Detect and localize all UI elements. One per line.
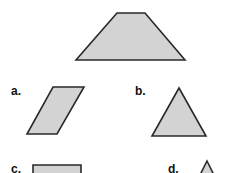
option-d-small-triangle[interactable] <box>200 161 214 173</box>
option-c-rectangle[interactable] <box>33 165 81 173</box>
shapes-diagram: a. b. c. d. <box>0 0 226 173</box>
option-a-label: a. <box>11 84 21 98</box>
option-b-label: b. <box>135 84 146 98</box>
option-c-label: c. <box>11 162 21 173</box>
option-b-triangle[interactable] <box>152 88 206 136</box>
option-d-label: d. <box>168 162 179 173</box>
reference-trapezoid <box>76 13 185 60</box>
option-a-parallelogram[interactable] <box>27 87 84 134</box>
